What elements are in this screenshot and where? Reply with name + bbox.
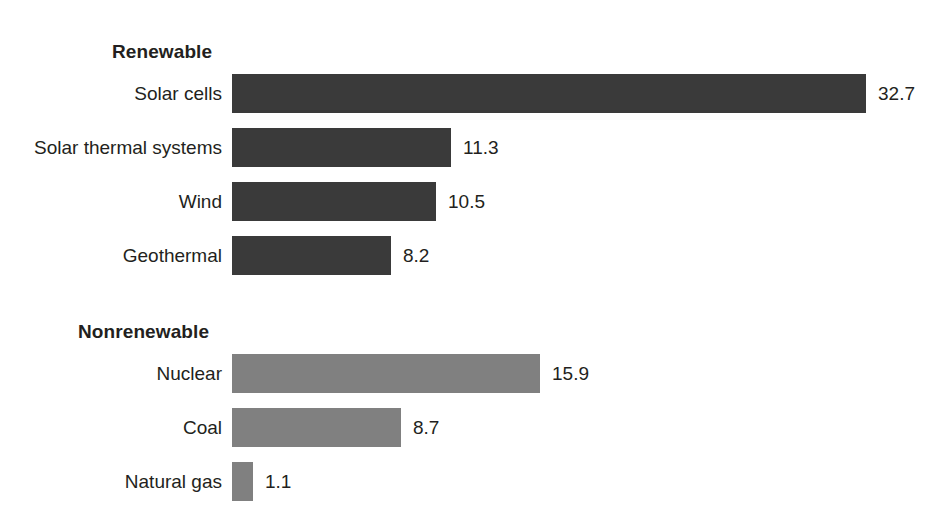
category-label-solar-cells: Solar cells <box>0 74 222 113</box>
bar-natural-gas <box>232 462 253 501</box>
bar-row-solar-thermal-systems: Solar thermal systems 11.3 <box>0 128 942 167</box>
category-label-wind: Wind <box>0 182 222 221</box>
bar-solar-cells <box>232 74 866 113</box>
bar-row-wind: Wind 10.5 <box>0 182 942 221</box>
bar-nuclear <box>232 354 540 393</box>
value-label-wind: 10.5 <box>448 182 485 221</box>
category-label-natural-gas: Natural gas <box>0 462 222 501</box>
bar-geothermal <box>232 236 391 275</box>
bar-solar-thermal-systems <box>232 128 451 167</box>
category-label-solar-thermal-systems: Solar thermal systems <box>0 128 222 167</box>
bar-row-nuclear: Nuclear 15.9 <box>0 354 942 393</box>
group-heading-renewable: Renewable <box>112 42 212 61</box>
value-label-solar-cells: 32.7 <box>878 74 915 113</box>
group-heading-nonrenewable: Nonrenewable <box>78 322 209 341</box>
bar-row-coal: Coal 8.7 <box>0 408 942 447</box>
bar-row-solar-cells: Solar cells 32.7 <box>0 74 942 113</box>
bar-row-geothermal: Geothermal 8.2 <box>0 236 942 275</box>
value-label-solar-thermal-systems: 11.3 <box>463 128 499 167</box>
category-label-coal: Coal <box>0 408 222 447</box>
value-label-nuclear: 15.9 <box>552 354 589 393</box>
category-label-nuclear: Nuclear <box>0 354 222 393</box>
value-label-geothermal: 8.2 <box>403 236 429 275</box>
bar-wind <box>232 182 436 221</box>
value-label-natural-gas: 1.1 <box>265 462 291 501</box>
bar-chart: Renewable Solar cells 32.7 Solar thermal… <box>0 0 942 524</box>
bar-coal <box>232 408 401 447</box>
value-label-coal: 8.7 <box>413 408 439 447</box>
category-label-geothermal: Geothermal <box>0 236 222 275</box>
bar-row-natural-gas: Natural gas 1.1 <box>0 462 942 501</box>
